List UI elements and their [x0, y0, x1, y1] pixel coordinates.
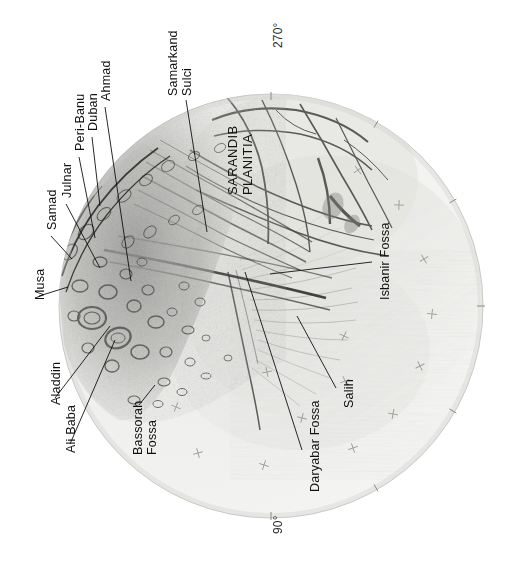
meridian-label-top: 270°	[272, 22, 285, 48]
label-aladdin: Aladdin	[49, 362, 63, 405]
label-isbanir-fossa: Isbanir Fossa	[378, 222, 392, 300]
label-salih-line1: Salih	[342, 379, 356, 408]
label-bassorah-fossa: BassorahFossa	[131, 401, 159, 455]
label-julnar: Julnar	[60, 163, 74, 198]
label-musa: Musa	[33, 269, 47, 300]
label-bassorah-fossa-line2: Fossa	[145, 401, 159, 455]
map-canvas	[0, 0, 505, 583]
label-duban-line1: Duban	[86, 93, 100, 131]
label-duban: Duban	[86, 93, 100, 131]
label-aladdin-line1: Aladdin	[49, 362, 63, 405]
label-musa-line1: Musa	[33, 269, 47, 300]
label-bassorah-fossa-line1: Bassorah	[131, 401, 145, 455]
planetary-map-figure: SamarkandSulciAhmadDubanPeri-BanuJulnarS…	[0, 0, 505, 583]
label-peri-banu: Peri-Banu	[73, 94, 87, 151]
label-peri-banu-line1: Peri-Banu	[73, 94, 87, 151]
label-ahmad-line1: Ahmad	[99, 60, 113, 101]
label-daryabar-fossa-line1: Daryabar Fossa	[308, 400, 322, 492]
label-sarandib-planitia-line2: PLANITIA	[241, 125, 256, 195]
label-samarkand-sulci: SamarkandSulci	[166, 30, 194, 96]
label-samad-line1: Samad	[45, 189, 59, 230]
label-salih: Salih	[342, 379, 356, 408]
label-samad: Samad	[45, 189, 59, 230]
label-sarandib-planitia-line1: SARANDIB	[225, 125, 240, 195]
label-sarandib-planitia: SARANDIBPLANITIA	[226, 125, 255, 195]
label-julnar-line1: Julnar	[60, 163, 74, 198]
label-ahmad: Ahmad	[99, 60, 113, 101]
label-ali-baba-line1: Ali Baba	[64, 405, 78, 453]
meridian-label-bottom: 90°	[272, 515, 285, 534]
label-samarkand-sulci-line2: Sulci	[180, 30, 194, 96]
label-ali-baba: Ali Baba	[64, 405, 78, 453]
label-samarkand-sulci-line1: Samarkand	[166, 30, 180, 96]
label-daryabar-fossa: Daryabar Fossa	[308, 400, 322, 492]
label-isbanir-fossa-line1: Isbanir Fossa	[378, 222, 392, 300]
